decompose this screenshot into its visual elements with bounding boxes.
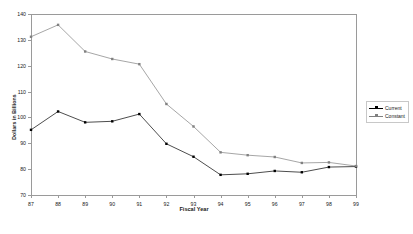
data-point-current-97 [301,171,303,173]
data-point-constant-94 [219,151,221,153]
y-tick-label-130: 130 [9,37,26,43]
data-point-constant-99 [355,165,357,167]
y-tick-label-120: 120 [9,63,26,69]
y-tick-label-110: 110 [9,89,26,95]
series-line-current [31,111,356,174]
data-point-constant-96 [274,156,276,158]
data-point-current-90 [111,120,113,122]
data-point-constant-98 [328,161,330,163]
y-tick-label-90: 90 [9,140,26,146]
data-point-current-95 [246,173,248,175]
data-point-current-92 [165,143,167,145]
x-axis-title: Fiscal Year [31,206,357,212]
y-tick-label-100: 100 [9,114,26,120]
data-point-current-89 [84,121,86,123]
data-point-constant-87 [30,36,32,38]
data-point-constant-97 [301,162,303,164]
y-tick-label-70: 70 [9,192,26,198]
data-point-constant-91 [138,63,140,65]
data-point-constant-88 [57,24,59,26]
legend-swatch-constant [369,113,383,120]
data-point-current-93 [192,156,194,158]
y-tick-label-80: 80 [9,166,26,172]
legend-label-current: Current [385,105,402,111]
series-constant [30,24,357,168]
legend-swatch-current [369,105,383,112]
data-point-current-96 [274,170,276,172]
data-point-constant-89 [84,50,86,52]
data-point-current-94 [219,174,221,176]
data-point-constant-92 [165,103,167,105]
chart-legend: Current Constant [366,101,409,123]
data-point-constant-93 [192,125,194,127]
data-point-current-98 [328,166,330,168]
data-point-constant-90 [111,58,113,60]
plot-area: 708090100110120130140 878889909192939495… [31,14,357,196]
data-point-constant-95 [246,154,248,156]
legend-item-current[interactable]: Current [369,104,405,112]
line-chart: Dollars in Billions 70809010011012013014… [0,0,413,234]
data-point-current-91 [138,113,140,115]
series-layer [31,14,357,196]
legend-item-constant[interactable]: Constant [369,112,405,120]
data-point-current-88 [57,110,59,112]
y-tick-label-140: 140 [9,11,26,17]
legend-label-constant: Constant [385,113,405,119]
series-line-constant [31,25,356,166]
data-point-current-87 [30,129,32,131]
series-current [30,110,357,176]
